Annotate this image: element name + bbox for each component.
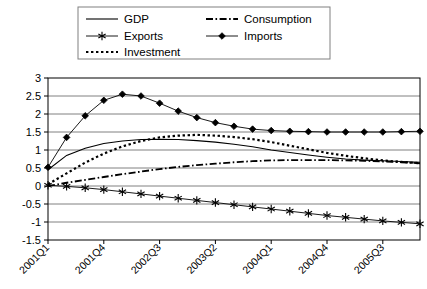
legend-label: Exports xyxy=(124,30,163,42)
y-tick-label: 2 xyxy=(35,108,41,120)
legend-label: Consumption xyxy=(244,13,312,25)
chart-legend: GDPConsumptionExportsImportsInvestment xyxy=(78,7,330,59)
y-tick-label: 2.5 xyxy=(26,90,41,102)
economic-indicators-line-chart: GDPConsumptionExportsImportsInvestment -… xyxy=(0,0,427,289)
y-tick-label: -1 xyxy=(31,216,41,228)
y-tick-label: 1 xyxy=(35,144,41,156)
legend-label: Investment xyxy=(124,46,181,58)
y-tick-label: 0 xyxy=(35,180,41,192)
y-tick-label: -1.5 xyxy=(22,234,41,246)
y-tick-label: 1.5 xyxy=(26,126,41,138)
y-tick-label: 3 xyxy=(35,72,41,84)
y-tick-label: 0.5 xyxy=(26,162,41,174)
legend-label: Imports xyxy=(244,30,283,42)
legend-label: GDP xyxy=(124,13,149,25)
chart-container: GDPConsumptionExportsImportsInvestment -… xyxy=(0,0,427,289)
y-tick-label: -0.5 xyxy=(22,198,41,210)
